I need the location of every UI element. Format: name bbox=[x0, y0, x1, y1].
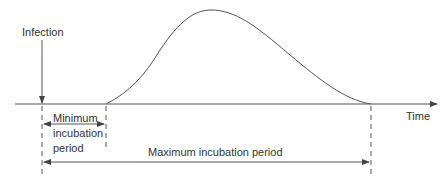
min-label-line2: incubation bbox=[53, 127, 103, 140]
min-label-line1: Minimum bbox=[53, 112, 98, 125]
infection-label: Infection bbox=[22, 26, 64, 39]
time-label: Time bbox=[406, 110, 430, 123]
min-label-line3: period bbox=[53, 142, 84, 155]
max-label: Maximum incubation period bbox=[148, 146, 283, 159]
case-distribution-curve bbox=[106, 10, 371, 104]
